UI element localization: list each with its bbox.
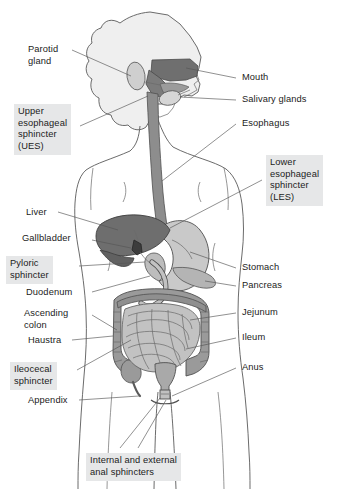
label-esophagus: Esophagus	[242, 118, 289, 130]
label-pyloric-sphincter: Pyloric sphincter	[6, 256, 53, 284]
label-pancreas: Pancreas	[242, 280, 282, 292]
right-flank-mark	[198, 182, 201, 202]
label-ileocecal-sphincter: Ileocecal sphincter	[10, 362, 57, 390]
label-duodenum: Duodenum	[26, 287, 72, 299]
label-haustra: Haustra	[28, 335, 61, 347]
esophagus-shape	[147, 92, 167, 228]
label-mouth: Mouth	[242, 72, 268, 84]
anatomy-illustration: .out{fill:none;stroke:#5a5a5a;stroke-wid…	[0, 0, 341, 491]
label-upper-esophageal-sphincter: Upper esophageal sphincter (UES)	[14, 104, 71, 155]
label-ascending-colon: Ascending colon	[24, 308, 68, 331]
leader-anus	[172, 368, 236, 396]
anal-canal	[160, 390, 170, 399]
label-anal-sphincters: Internal and external anal sphincters	[86, 453, 181, 481]
label-lower-esophageal-sphincter: Lower esophageal sphincter (LES)	[266, 155, 323, 206]
label-jejunum: Jejunum	[242, 307, 278, 319]
leader-anal-sphincters-1	[120, 398, 160, 448]
rectum-shape	[155, 363, 176, 392]
digestive-system-diagram: .out{fill:none;stroke:#5a5a5a;stroke-wid…	[0, 0, 341, 491]
left-flank-mark	[123, 182, 126, 202]
rectum-group	[151, 363, 179, 404]
leader-les	[170, 180, 262, 228]
right-hip-mark	[213, 243, 215, 271]
label-salivary-glands: Salivary glands	[242, 94, 307, 106]
appendix-shape	[133, 382, 140, 396]
label-liver: Liver	[26, 207, 47, 219]
leader-haustra	[72, 336, 113, 340]
leader-appendix	[79, 396, 139, 400]
label-parotid-gland: Parotid gland	[28, 44, 58, 67]
label-stomach: Stomach	[242, 262, 279, 274]
right-arm-line	[224, 168, 228, 210]
label-appendix: Appendix	[28, 395, 68, 407]
leader-lines	[58, 50, 262, 448]
label-anus: Anus	[242, 362, 264, 374]
label-gallbladder: Gallbladder	[22, 233, 71, 245]
leader-anal-sphincters-2	[138, 400, 166, 448]
right-thigh-line	[218, 392, 224, 489]
label-ileum: Ileum	[242, 332, 265, 344]
left-arm-line	[91, 168, 93, 210]
leader-salivary-glands	[180, 97, 236, 100]
